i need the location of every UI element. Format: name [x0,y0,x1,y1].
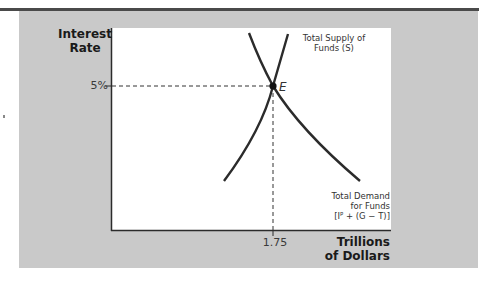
equilibrium-point [269,82,276,89]
y-axis-label-line2: Rate [58,41,112,55]
demand-label-line2: for Funds [280,201,390,211]
supply-label-line1: Total Supply of [293,33,375,43]
supply-label-line2: Funds (S) [293,43,375,53]
x-axis-label-line1: Trillions [310,235,390,249]
y-axis-label-line1: Interest [58,27,112,41]
supply-curve-label: Total Supply of Funds (S) [293,33,375,53]
x-tick-label: 1.75 [255,236,295,249]
demand-curve-label: Total Demand for Funds [Iᴾ + (G − T)] [280,191,390,221]
y-tick-label: 5% [78,79,108,92]
demand-label-line3: [Iᴾ + (G − T)] [280,211,390,221]
supply-curve [224,34,288,181]
y-axis-label: Interest Rate [58,27,112,55]
x-axis-label: Trillions of Dollars [310,235,390,263]
x-axis-label-line2: of Dollars [310,249,390,263]
demand-label-line1: Total Demand [280,191,390,201]
equilibrium-label: E [279,80,287,94]
